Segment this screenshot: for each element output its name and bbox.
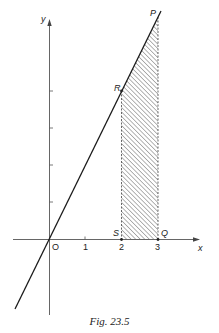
y-axis-arrow-icon [47, 19, 51, 26]
x-tick-label-2: 2 [119, 243, 124, 252]
x-axis [13, 237, 200, 242]
origin-label: O [52, 243, 59, 252]
point-p-label: P [150, 9, 156, 18]
x-axis-arrow-icon [193, 237, 200, 241]
point-s-label: S [113, 229, 119, 238]
x-tick-label-3: 3 [155, 243, 160, 252]
graph-svg [0, 0, 219, 333]
figure-caption: Fig. 23.5 [0, 315, 219, 327]
point-r-label: R [114, 84, 121, 93]
x-tick-label-1: 1 [83, 243, 88, 252]
y-axis-label: y [41, 15, 46, 24]
shaded-region [122, 17, 159, 239]
figure-23-5: y x O 1 2 3 P R S Q Fig. 23.5 [0, 0, 219, 333]
point-q-label: Q [161, 229, 168, 238]
x-axis-label: x [198, 244, 203, 253]
y-axis [47, 19, 53, 315]
